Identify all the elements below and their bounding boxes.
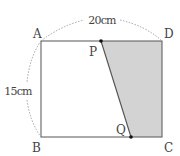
vertex-label-b: B — [32, 141, 41, 155]
dimension-arc-left-bottom — [27, 100, 41, 137]
vertex-label-c: C — [164, 141, 173, 155]
dimension-arc-top-right — [120, 20, 162, 41]
geometry-diagram: A D B C P Q 20cm 15cm — [0, 0, 180, 156]
shaded-region-pdcq — [101, 41, 162, 137]
point-p-marker — [99, 39, 103, 43]
point-q-marker — [129, 135, 133, 139]
vertex-label-a: A — [32, 27, 42, 41]
dimension-label-left: 15cm — [4, 85, 33, 98]
point-label-q: Q — [116, 123, 126, 137]
dimension-label-top: 20cm — [88, 14, 117, 27]
point-label-p: P — [89, 45, 97, 59]
dimension-arc-top — [41, 20, 84, 41]
dimension-arc-left — [27, 41, 41, 82]
vertex-label-d: D — [164, 27, 174, 41]
